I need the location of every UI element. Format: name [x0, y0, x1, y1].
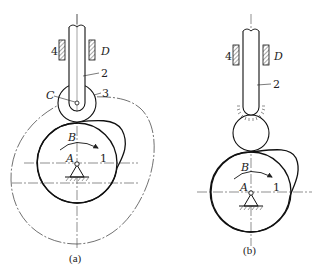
guide-left [59, 40, 65, 60]
label-cam-center: A [239, 181, 248, 194]
guide-left [233, 45, 239, 65]
roller [233, 115, 269, 151]
label-cam: 1 [100, 152, 107, 165]
label-cam: 1 [273, 181, 280, 194]
panel-b: 4 D 2 B A 1 (b) [197, 14, 312, 257]
caption-a: (a) [69, 252, 82, 265]
caption-b: (b) [243, 244, 256, 257]
label-guide-right: D [100, 45, 110, 58]
guide-right [263, 45, 269, 65]
label-guide-left: 4 [51, 45, 58, 58]
label-follower: 2 [273, 78, 280, 91]
label-guide-right: D [273, 50, 283, 63]
label-follower: 2 [101, 67, 108, 80]
leader-roller [94, 93, 101, 95]
label-cam-center: A [65, 152, 74, 165]
roller-pin [75, 101, 79, 105]
cam-mechanism-figure: 4 D 2 C 3 B A 1 (a) [0, 0, 321, 266]
label-roller: 3 [102, 87, 109, 100]
label-contact-point: B [67, 131, 76, 144]
label-contact-point: B [240, 161, 249, 174]
follower-rod [243, 31, 259, 115]
rotation-arrow [234, 171, 272, 179]
panel-a: 4 D 2 C 3 B A 1 (a) [11, 14, 154, 265]
label-guide-left: 4 [225, 50, 232, 63]
cam-profile [210, 150, 298, 232]
rotation-arrow [60, 142, 98, 150]
label-roller-center: C [46, 89, 55, 102]
guide-right [89, 40, 95, 60]
